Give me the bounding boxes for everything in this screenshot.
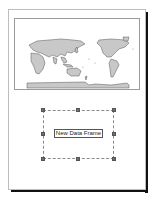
resize-handle-top-right[interactable] [112, 108, 116, 112]
resize-handle-middle-left[interactable] [41, 132, 45, 136]
resize-handle-bottom-center[interactable] [76, 157, 80, 161]
new-data-frame-label: New Data Frame [54, 129, 103, 138]
resize-handle-top-center[interactable] [76, 108, 80, 112]
resize-handle-top-left[interactable] [41, 108, 45, 112]
resize-handle-bottom-right[interactable] [112, 157, 116, 161]
resize-handle-bottom-left[interactable] [41, 157, 45, 161]
resize-handle-middle-right[interactable] [112, 132, 116, 136]
world-map-icon [15, 19, 141, 91]
map-data-frame[interactable] [14, 18, 140, 90]
